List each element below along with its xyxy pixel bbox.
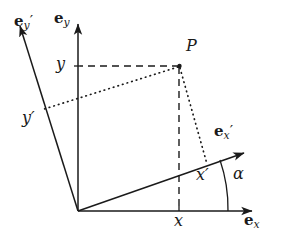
label-basis-ex: ex [244, 213, 260, 231]
point-P-marker [177, 64, 181, 68]
label-coord-y: y [56, 56, 65, 72]
figure-root: ey′ ey ex′ ex P y y′ x x′ α [0, 0, 284, 245]
label-basis-ey-prime-mark: ′ [30, 12, 33, 30]
label-basis-ey-prime-vector: e [14, 12, 24, 30]
label-basis-ey-vector: e [54, 9, 64, 27]
angle-arc-alpha [220, 160, 228, 211]
label-basis-ey-subscript: y [64, 16, 70, 29]
label-basis-ex-subscript: x [254, 218, 260, 231]
label-angle-alpha: α [233, 166, 244, 182]
coordinate-diagram-svg [0, 0, 284, 245]
projection-y-prime-dotted [41, 67, 178, 110]
label-coord-y-prime: y′ [22, 110, 35, 126]
axis-ex-prime-line [78, 153, 244, 211]
label-coord-x: x [174, 213, 183, 229]
label-basis-ex-vector: e [244, 211, 254, 229]
label-point-p: P [186, 38, 197, 54]
label-basis-ex-prime: ex′ [214, 124, 233, 142]
label-basis-ex-prime-mark: ′ [230, 122, 233, 140]
label-basis-ey-prime: ey′ [14, 14, 33, 32]
projection-x-prime-dotted [180, 68, 207, 164]
label-basis-ey: ey [54, 11, 70, 29]
label-basis-ex-prime-vector: e [214, 122, 224, 140]
label-coord-x-prime: x′ [196, 167, 209, 183]
